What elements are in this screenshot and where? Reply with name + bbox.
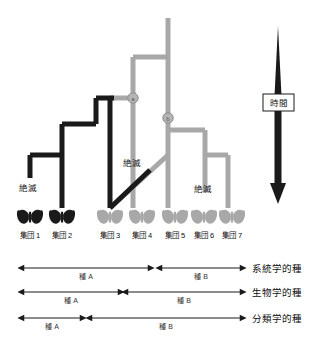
extinction-label-middle: 絶滅 [123,158,141,168]
population-label-3: 集団 3 [100,230,120,240]
extinction-label-right: 絶滅 [194,184,212,194]
butterfly-icon-pop-3 [97,210,123,224]
species-concept-name-taxonomic: 分類学的種 [252,313,302,324]
butterfly-icon-pop-1 [17,210,43,224]
range-label-phylogenetic-a: 種 A [79,273,93,281]
population-labels: 集団 1 集団 2 集団 3 集団 4 集団 5 集団 6 集団 7 [20,230,242,240]
phylogeny-figure: a b 絶滅 絶滅 絶滅 時間 [0,0,319,344]
range-label-biological-a: 種 A [64,297,78,305]
population-label-4: 集団 4 [132,230,152,240]
population-label-5: 集団 5 [165,230,185,240]
range-label-phylogenetic-b: 種 B [194,273,208,281]
range-label-taxonomic-b: 種 B [159,323,173,331]
population-label-1: 集団 1 [20,230,40,240]
population-label-2: 集団 2 [52,230,72,240]
species-concept-name-phylogenetic: 系統学的種 [252,263,302,274]
figure-canvas: a b 絶滅 絶滅 絶滅 時間 [0,0,319,344]
time-label: 時間 [270,98,288,108]
butterfly-icon-pop-4 [129,210,155,224]
population-label-6: 集団 6 [194,230,214,240]
range-label-biological-b: 種 B [177,297,191,305]
butterfly-icon-pop-2 [49,210,75,224]
range-label-taxonomic-a: 種 A [45,323,59,331]
butterfly-icon-pop-6 [191,210,217,224]
species-concept-name-biological: 生物学的種 [252,287,302,298]
butterfly-icon-pop-5 [162,210,188,224]
butterfly-icon-pop-7 [219,210,245,224]
population-label-7: 集団 7 [222,230,242,240]
extinction-label-left: 絶滅 [19,183,37,193]
